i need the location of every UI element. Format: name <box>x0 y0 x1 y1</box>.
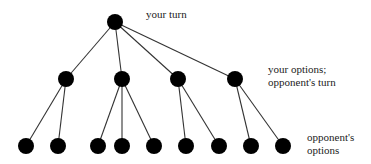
label-options: options <box>307 144 339 156</box>
label-your-turn: your turn <box>146 8 187 20</box>
tree-edge <box>115 22 178 79</box>
tree-node-m4 <box>227 71 243 87</box>
tree-edge <box>178 79 186 146</box>
tree-node-l6 <box>178 138 194 154</box>
tree-edge <box>66 22 115 79</box>
tree-node-l8 <box>243 138 259 154</box>
tree-node-l7 <box>211 138 227 154</box>
tree-edge <box>235 79 283 146</box>
tree-edge <box>115 22 235 79</box>
label-opponents-turn: opponent's turn <box>268 76 336 88</box>
tree-node-l3 <box>90 138 106 154</box>
game-tree-diagram: your turn your options; opponent's turn … <box>0 0 371 164</box>
tree-node-m2 <box>114 71 130 87</box>
tree-edge <box>235 79 251 146</box>
tree-node-root <box>107 14 123 30</box>
tree-node-m1 <box>58 71 74 87</box>
tree-node-l2 <box>50 138 66 154</box>
tree-node-l9 <box>275 138 291 154</box>
tree-node-m3 <box>170 71 186 87</box>
tree-nodes <box>18 14 291 154</box>
tree-edge <box>98 79 122 146</box>
tree-edge <box>115 22 122 79</box>
label-opponents: opponent's <box>307 131 354 143</box>
tree-node-l5 <box>146 138 162 154</box>
label-your-options: your options; <box>268 63 326 75</box>
tree-node-l4 <box>114 138 130 154</box>
tree-node-l1 <box>18 138 34 154</box>
tree-edge <box>26 79 66 146</box>
tree-edge <box>122 79 154 146</box>
tree-edge <box>178 79 219 146</box>
tree-edge <box>58 79 66 146</box>
